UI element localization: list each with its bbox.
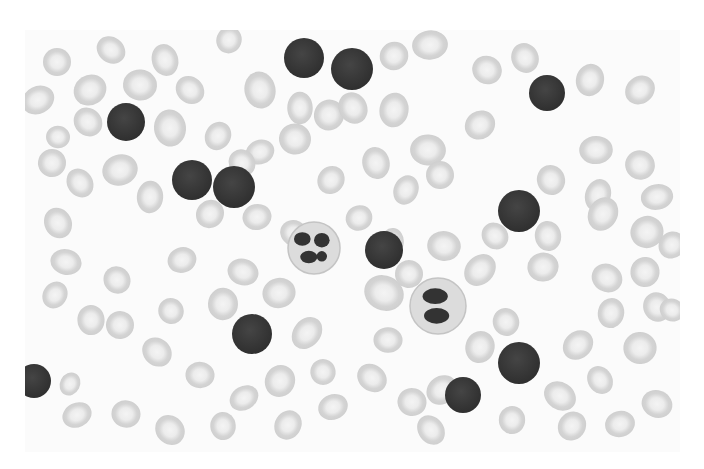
- lymphocyte: [498, 342, 540, 384]
- lymphocyte: [365, 231, 403, 269]
- lymphocyte: [445, 377, 481, 413]
- lymphocyte: [213, 166, 255, 208]
- lymphocyte: [107, 103, 145, 141]
- lymphocyte: [284, 38, 324, 78]
- lymphocyte: [172, 160, 212, 200]
- lymphocyte: [232, 314, 272, 354]
- red-blood-cell: [43, 48, 71, 76]
- neutrophil: [288, 222, 340, 274]
- red-blood-cell: [499, 406, 525, 434]
- microscope-field: [17, 23, 691, 452]
- lymphocyte: [529, 75, 565, 111]
- neutrophil: [410, 278, 466, 334]
- lymphocyte: [498, 190, 540, 232]
- lymphocyte: [331, 48, 373, 90]
- blood-smear-micrograph: [0, 0, 704, 469]
